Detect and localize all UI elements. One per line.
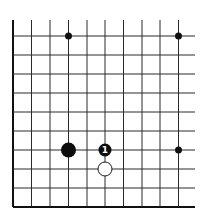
move-number: 1 (102, 145, 108, 155)
board-grid (13, 20, 195, 207)
black-stone (61, 143, 76, 158)
go-board: 1 (0, 0, 209, 221)
black-stone-icon (61, 143, 76, 158)
white-stone (98, 162, 112, 176)
star-point-icon (65, 33, 72, 40)
star-point-icon (175, 147, 182, 154)
star-point-icon (175, 33, 182, 40)
black-stone-move-1: 1 (99, 144, 112, 157)
white-stone-icon (98, 162, 112, 176)
